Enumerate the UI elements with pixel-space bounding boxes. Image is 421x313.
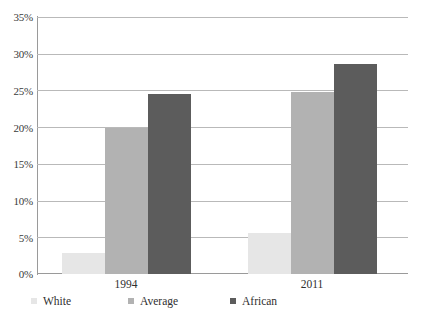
bar-1994-average [105, 128, 148, 274]
bar-1994-african [148, 94, 191, 274]
legend-label-white: White [43, 295, 71, 307]
y-axis-tick-30: 30% [0, 49, 33, 60]
y-axis-tick-25: 25% [0, 86, 33, 97]
gridline-35 [37, 17, 408, 18]
legend-swatch-average-icon [128, 298, 134, 304]
legend-item-african[interactable]: African [230, 294, 277, 308]
chart-legend: White Average African [0, 294, 421, 313]
plot-area [37, 17, 408, 274]
y-axis-tick-35: 35% [0, 12, 33, 23]
y-axis-tick-5: 5% [0, 233, 33, 244]
bar-2011-average [291, 92, 334, 274]
bar-1994-white [62, 253, 105, 274]
legend-swatch-white-icon [31, 298, 37, 304]
legend-label-african: African [242, 295, 277, 307]
y-axis-tick-labels: 35% 30% 25% 20% 15% 10% 5% 0% [0, 0, 33, 313]
legend-item-white[interactable]: White [31, 294, 71, 308]
x-axis-label-1994: 1994 [96, 278, 156, 290]
y-axis-tick-15: 15% [0, 159, 33, 170]
y-axis-tick-20: 20% [0, 123, 33, 134]
y-axis-tick-10: 10% [0, 196, 33, 207]
legend-item-average[interactable]: Average [128, 294, 178, 308]
legend-swatch-african-icon [230, 298, 236, 304]
bar-2011-african [334, 64, 377, 274]
x-axis-label-2011: 2011 [282, 278, 342, 290]
y-axis-tick-0: 0% [0, 269, 33, 280]
bar-2011-white [248, 233, 291, 274]
legend-label-average: Average [140, 295, 178, 307]
bar-chart: 35% 30% 25% 20% 15% 10% 5% 0% 1994 2011 [0, 0, 421, 313]
gridline-30 [37, 54, 408, 55]
